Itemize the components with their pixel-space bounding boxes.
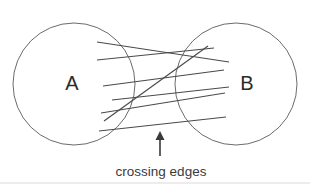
set-b-circle (175, 23, 297, 145)
crossing-edge-6 (101, 93, 225, 113)
crossing-edges-caption: crossing edges (116, 164, 207, 179)
crossing-edges-group (97, 42, 229, 131)
diagram-canvas: A B crossing edges (0, 0, 310, 184)
crossing-edge-1 (97, 42, 229, 62)
crossing-edge-7 (99, 117, 226, 131)
up-arrow-icon (156, 131, 165, 156)
crossing-edge-4 (112, 87, 229, 100)
set-a-label: A (65, 72, 79, 94)
set-b-label: B (240, 72, 253, 94)
crossing-edges-diagram: A B crossing edges (0, 0, 310, 184)
